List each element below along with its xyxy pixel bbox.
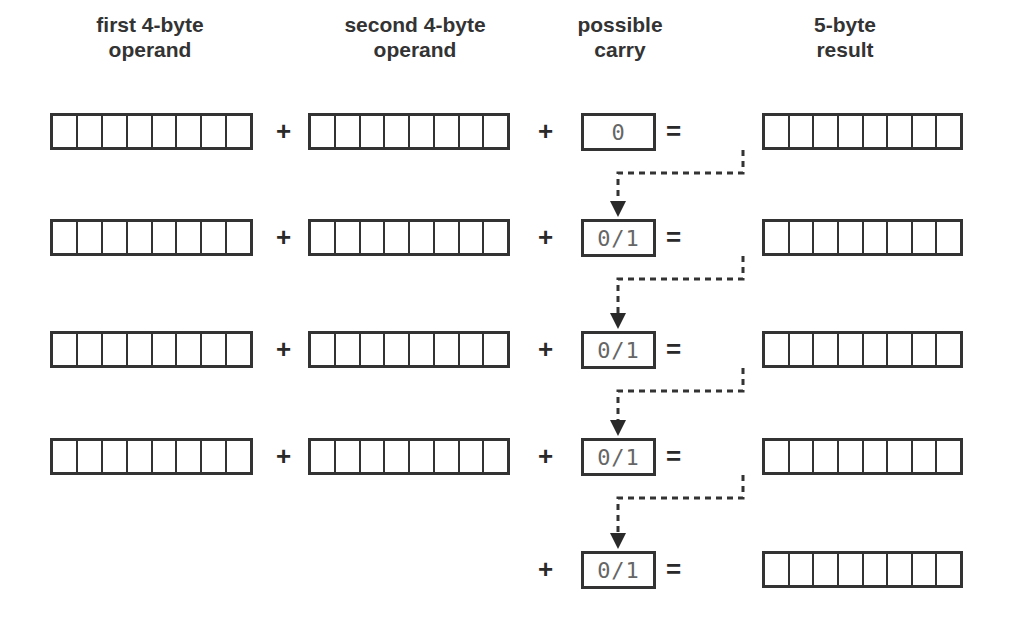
- carry-connector-line: [618, 256, 743, 315]
- arrow-down-icon: [610, 313, 626, 329]
- arrow-down-icon: [610, 201, 626, 217]
- carry-connector-line: [618, 368, 743, 422]
- arrow-down-icon: [610, 420, 626, 436]
- arrow-down-icon: [610, 533, 626, 549]
- carry-connector-line: [618, 475, 743, 535]
- carry-connectors: [0, 0, 1010, 621]
- carry-connector-line: [618, 150, 743, 203]
